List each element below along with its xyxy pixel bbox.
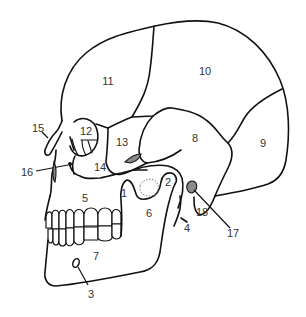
- infraorbital-foramen: [68, 162, 72, 166]
- label-8: 8: [192, 133, 198, 144]
- skull-illustration: [0, 0, 306, 317]
- frontal-lower-edge: [56, 121, 62, 132]
- sphenoid-temporal-boundary: [139, 116, 153, 163]
- label-5: 5: [82, 193, 88, 204]
- label-4: 4: [184, 223, 190, 234]
- sphenoid-frontal-boundary: [96, 117, 132, 128]
- lambdoid-suture: [215, 143, 232, 196]
- zygomatic-process: [147, 150, 181, 163]
- label-7: 7: [93, 251, 99, 262]
- pterygoid-shade: [125, 154, 141, 163]
- mental-foramen: [72, 258, 81, 269]
- label-11: 11: [102, 76, 113, 87]
- label-2: 2: [165, 177, 171, 188]
- label-18: 18: [196, 207, 208, 218]
- coronal-suture: [132, 26, 154, 117]
- styloid-process: [174, 196, 181, 226]
- label-13: 13: [116, 137, 128, 148]
- label-16: 16: [21, 167, 33, 178]
- orbit-inner-lines: [72, 139, 97, 155]
- label-1: 1: [121, 188, 127, 199]
- articular-tubercle-dotted: [140, 179, 158, 196]
- label-6: 6: [146, 208, 152, 219]
- label-15: 15: [32, 123, 44, 134]
- label-9: 9: [260, 138, 266, 149]
- leader-16: [36, 165, 68, 171]
- nasal-bone: [45, 132, 62, 155]
- label-10: 10: [199, 66, 211, 77]
- label-17: 17: [227, 228, 239, 239]
- squamous-suture: [132, 89, 282, 143]
- nasal-cavity-shade: [53, 162, 56, 182]
- skull-diagram: 1 2 3 4 5 6 7 8 9 10 11 12 13 14 15 16 1…: [0, 0, 306, 317]
- label-12: 12: [80, 126, 92, 137]
- label-14: 14: [94, 162, 106, 173]
- label-3: 3: [88, 289, 94, 300]
